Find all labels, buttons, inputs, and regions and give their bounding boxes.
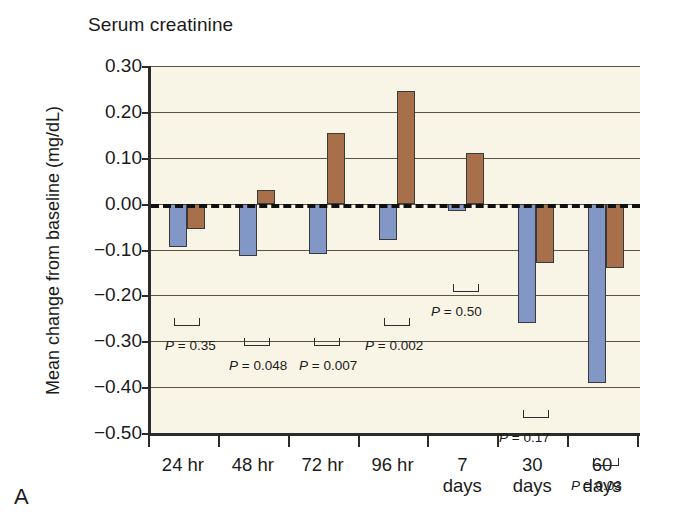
y-tick-label: −0.40 — [52, 376, 142, 398]
x-axis: 24 hr48 hr72 hr96 hr7days30days60days — [148, 436, 640, 526]
bar-blue-2 — [309, 204, 327, 254]
gridline — [151, 250, 640, 251]
bar-brown-1 — [257, 190, 275, 204]
p-value-label-6: P = 0.03 — [571, 478, 622, 493]
p-italic: P — [165, 338, 174, 353]
significance-bracket-3 — [384, 318, 410, 326]
y-tick-label: −0.30 — [52, 330, 142, 352]
x-tick-mark — [567, 436, 569, 447]
p-italic: P — [299, 358, 308, 373]
p-italic: P — [365, 338, 374, 353]
gridline — [151, 158, 640, 159]
y-tick-label: 0.30 — [52, 55, 142, 77]
x-tick-mark — [288, 436, 290, 447]
significance-bracket-1 — [244, 338, 270, 346]
p-value-text: = 0.03 — [580, 478, 622, 493]
bar-brown-2 — [327, 133, 345, 204]
p-value-label-4: P = 0.50 — [427, 304, 486, 319]
gridline — [151, 112, 640, 113]
bar-blue-1 — [239, 204, 257, 257]
bar-blue-6 — [588, 204, 606, 383]
plot-top-border — [151, 66, 640, 67]
bar-blue-5 — [518, 204, 536, 323]
bar-brown-5 — [536, 204, 554, 264]
y-tick-label: 0.00 — [52, 193, 142, 215]
bar-blue-3 — [379, 204, 397, 241]
plot-area: P = 0.35P = 0.048P = 0.007P = 0.002P = 0… — [148, 66, 640, 436]
y-tick-label: −0.50 — [52, 422, 142, 444]
x-tick-mark — [427, 436, 429, 447]
y-tick-label: −0.10 — [52, 239, 142, 261]
p-value-label-2: P = 0.007 — [299, 358, 357, 373]
y-tick-label: 0.10 — [52, 147, 142, 169]
bar-blue-0 — [169, 204, 187, 248]
p-italic: P — [229, 358, 238, 373]
significance-bracket-4 — [453, 284, 479, 292]
p-value-text: = 0.17 — [508, 430, 550, 445]
bar-brown-3 — [397, 91, 415, 203]
p-value-label-1: P = 0.048 — [229, 358, 287, 373]
bar-brown-6 — [606, 204, 624, 268]
significance-bracket-6 — [593, 458, 619, 466]
p-value-text: = 0.50 — [440, 304, 482, 319]
x-tick-mark — [218, 436, 220, 447]
p-value-label-3: P = 0.002 — [365, 338, 423, 353]
gridline — [151, 387, 640, 388]
y-tick-label: 0.20 — [52, 101, 142, 123]
p-value-text: = 0.007 — [308, 358, 357, 373]
p-italic: P — [499, 430, 508, 445]
p-italic: P — [431, 304, 440, 319]
x-tick-mark — [637, 436, 639, 447]
y-tick-label: −0.20 — [52, 284, 142, 306]
p-value-text: = 0.048 — [238, 358, 287, 373]
zero-reference-line — [151, 204, 640, 208]
p-value-label-5: P = 0.17 — [499, 430, 550, 445]
p-value-label-0: P = 0.35 — [165, 338, 216, 353]
figure-panel-a: Serum creatinine Mean change from baseli… — [0, 0, 679, 532]
significance-bracket-2 — [314, 338, 340, 346]
significance-bracket-5 — [523, 410, 549, 418]
p-value-text: = 0.35 — [174, 338, 216, 353]
bar-brown-4 — [466, 153, 484, 203]
gridline — [151, 295, 640, 296]
chart-title: Serum creatinine — [88, 14, 233, 36]
p-italic: P — [571, 478, 580, 493]
significance-bracket-0 — [174, 318, 200, 326]
x-tick-mark — [148, 436, 150, 447]
p-value-text: = 0.002 — [374, 338, 423, 353]
panel-letter: A — [14, 484, 29, 510]
x-tick-mark — [358, 436, 360, 447]
y-axis-ticks: 0.300.200.100.00−0.10−0.20−0.30−0.40−0.5… — [50, 66, 142, 433]
